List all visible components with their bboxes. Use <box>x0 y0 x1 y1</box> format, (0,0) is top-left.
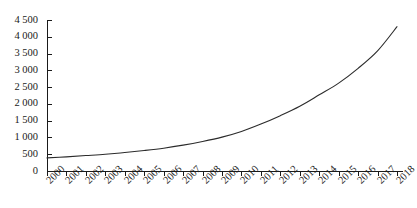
x-tick-label: 2016 <box>355 163 378 186</box>
x-tick-label: 2017 <box>375 163 398 186</box>
x-tick-label: 2002 <box>83 163 106 186</box>
x-tick-label: 2001 <box>63 163 86 186</box>
x-tick-label: 2003 <box>102 163 125 186</box>
x-tick-label: 2008 <box>200 163 223 186</box>
x-tick-label: 2012 <box>277 163 300 186</box>
x-tick-label: 2014 <box>316 163 339 186</box>
x-tick-label: 2009 <box>219 163 242 186</box>
x-tick-label: 2000 <box>44 163 67 186</box>
x-tick-label: 2013 <box>297 163 320 186</box>
x-tick-label: 2011 <box>258 163 280 185</box>
x-tick-label: 2015 <box>336 163 359 186</box>
x-tick-label: 2007 <box>180 163 203 186</box>
x-tick-label: 2004 <box>122 163 145 186</box>
x-tick-label: 2018 <box>394 163 417 186</box>
x-tick-label: 2005 <box>141 163 164 186</box>
x-tick-label: 2006 <box>161 163 184 186</box>
x-tick-label: 2010 <box>238 163 261 186</box>
